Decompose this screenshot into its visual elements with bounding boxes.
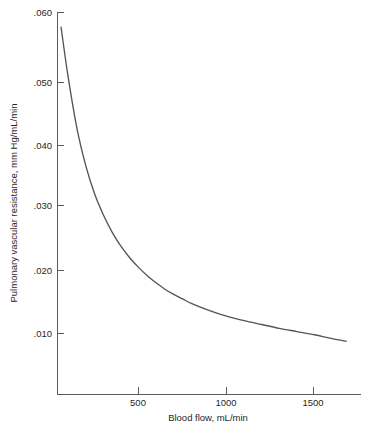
y-tick-label: .020 [34,265,53,276]
chart-figure: .060 .050 .040 .030 .020 .010 500 1000 1… [0,0,368,430]
x-axis-tick-labels: 500 1000 1500 [130,397,324,408]
y-tick-label: .040 [34,140,53,151]
y-tick-label: .060 [34,7,53,18]
y-tick-label: .010 [34,328,53,339]
plot-area: .060 .050 .040 .030 .020 .010 500 1000 1… [0,0,368,430]
x-axis-title: Blood flow, mL/min [168,412,248,423]
x-tick-label: 1000 [215,397,236,408]
x-tick-label: 1500 [302,397,323,408]
resistance-curve [61,27,346,341]
x-tick-label: 500 [130,397,146,408]
x-axis-ticks [139,387,314,394]
y-tick-label: .030 [34,200,53,211]
y-axis-tick-labels: .060 .050 .040 .030 .020 .010 [34,7,53,339]
y-axis-title: Pulmonary vascular resistance, mm Hg/mL/… [8,103,19,302]
y-tick-label: .050 [34,77,53,88]
